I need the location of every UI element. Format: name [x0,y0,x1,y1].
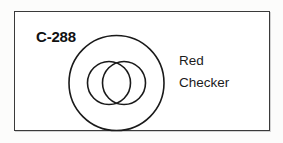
caption-line-1: Red [179,50,279,72]
card-frame: C-288 Red Checker [14,11,270,131]
outer-circle-shape [69,36,164,131]
screenshot-root: C-288 Red Checker [0,0,283,143]
overlapping-circles-icon [65,28,171,140]
checker-diagram [65,28,171,140]
caption-line-2: Checker [179,72,279,94]
card-caption: Red Checker [179,50,279,94]
